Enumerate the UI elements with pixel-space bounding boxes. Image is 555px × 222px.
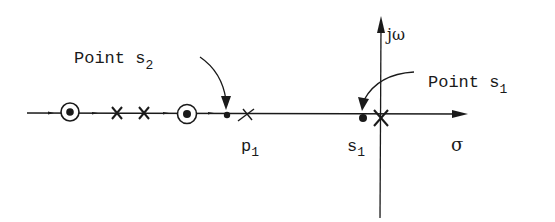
point-s1-pointer-arrow xyxy=(364,72,414,100)
zero-marker-icon xyxy=(178,105,197,124)
zero-marker-icon xyxy=(61,103,79,121)
label-point-s1: Point s1 xyxy=(428,73,507,97)
label-s1: s1 xyxy=(347,137,365,160)
imaginary-axis-arrowhead-icon xyxy=(377,16,385,33)
point-s2-arrowhead-icon xyxy=(221,96,231,110)
label-p1: p1 xyxy=(241,137,259,160)
pole-p1-marker-icon xyxy=(238,109,254,121)
imaginary-axis-label: jω xyxy=(385,25,405,44)
point-s2-pointer-arrow xyxy=(200,57,226,100)
s-plane-diagram: Point s2 Point s1 p1 s1 jω σ xyxy=(0,0,555,222)
real-axis-label: σ xyxy=(451,134,463,155)
point-s1-dot-icon xyxy=(359,114,367,122)
point-s1-arrowhead-icon xyxy=(358,97,369,111)
real-axis-arrowhead-icon xyxy=(452,110,468,118)
label-point-s2: Point s2 xyxy=(74,49,153,73)
point-s2-dot-icon xyxy=(224,112,230,118)
